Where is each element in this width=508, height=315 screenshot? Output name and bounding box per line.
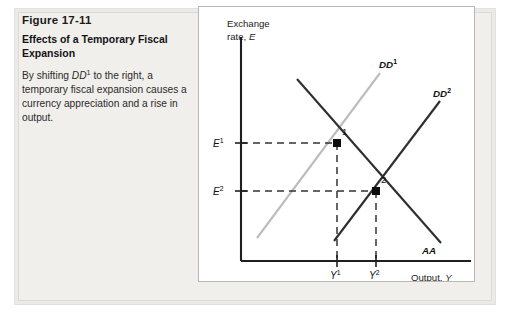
chart-panel: 1 2 Exchange rate, E Output, Y E1 E2 Y1	[198, 6, 475, 282]
curve-label-dd2-base: DD	[433, 88, 447, 99]
xtick-y1-superscript: 1	[337, 269, 341, 276]
x-axis-label: Output, Y	[411, 272, 452, 281]
description-text-before: By shifting	[22, 70, 72, 81]
equilibrium-point-2-label: 2	[381, 174, 386, 185]
y-axis-label-variable: E	[249, 31, 256, 42]
xtick-y2-superscript: 2	[376, 269, 380, 276]
y-axis-label-text: rate,	[227, 31, 249, 42]
dd-aa-diagram: 1 2 Exchange rate, E Output, Y E1 E2 Y1	[199, 7, 474, 281]
xtick-label-y1: Y1	[330, 269, 341, 281]
curve-label-dd2-superscript: 2	[447, 87, 451, 94]
curve-label-dd1-superscript: 1	[393, 58, 397, 65]
figure-title: Effects of a Temporary Fiscal Expansion	[22, 33, 194, 61]
equilibrium-point-1-marker	[333, 139, 341, 147]
ytick-label-e1: E1	[213, 137, 224, 149]
curve-label-aa: AA	[421, 245, 436, 256]
x-axis-label-variable: Y	[445, 272, 452, 281]
curve-aa	[297, 79, 441, 243]
curve-label-dd1: DD1	[379, 58, 397, 70]
ytick-e1-superscript: 1	[220, 137, 224, 144]
ytick-e2-superscript: 2	[220, 185, 224, 192]
figure-description: By shifting DD1 to the right, a temporar…	[22, 68, 194, 125]
curve-label-dd2: DD2	[433, 87, 451, 99]
y-axis-label-line1: Exchange	[227, 18, 270, 29]
description-curve-name: DD	[72, 70, 87, 81]
equilibrium-point-2-marker	[372, 187, 380, 195]
curve-label-dd1-base: DD	[379, 59, 393, 70]
xtick-label-y2: Y2	[369, 269, 380, 281]
curve-dd2	[334, 101, 440, 241]
x-axis-label-text: Output,	[411, 272, 445, 281]
ytick-label-e2: E2	[213, 185, 224, 197]
y-axis-label-line2: rate, E	[227, 31, 256, 42]
figure-number: Figure 17-11	[22, 14, 194, 26]
equilibrium-point-1-label: 1	[342, 126, 347, 137]
curve-dd1	[257, 73, 380, 238]
figure-screenshot: Figure 17-11 Effects of a Temporary Fisc…	[0, 0, 508, 315]
caption-block: Figure 17-11 Effects of a Temporary Fisc…	[22, 14, 194, 125]
